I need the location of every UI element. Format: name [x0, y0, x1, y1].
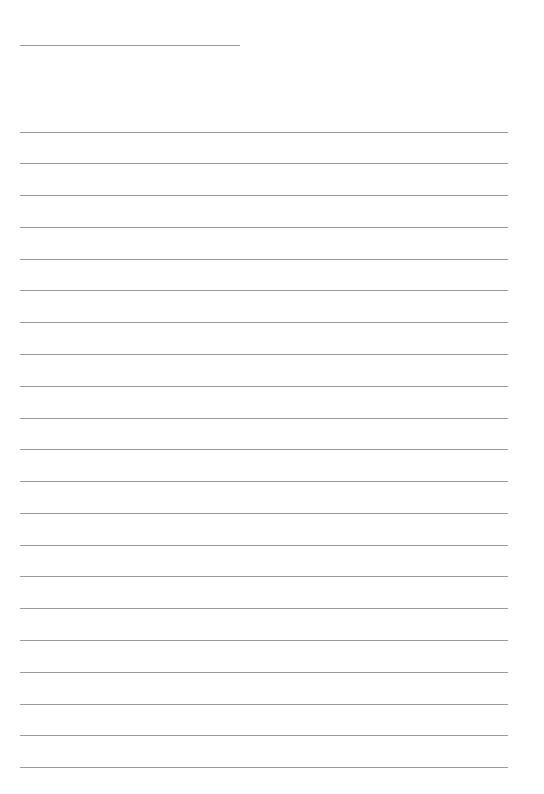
ruled-line	[20, 418, 508, 419]
ruled-line	[20, 195, 508, 196]
ruled-line	[20, 163, 508, 164]
lined-paper-page	[0, 0, 544, 794]
ruled-line	[20, 513, 508, 514]
ruled-line	[20, 608, 508, 609]
ruled-line	[20, 449, 508, 450]
ruled-line	[20, 735, 508, 736]
ruled-line	[20, 259, 508, 260]
ruled-line	[20, 672, 508, 673]
ruled-line	[20, 704, 508, 705]
ruled-line	[20, 386, 508, 387]
ruled-line	[20, 227, 508, 228]
ruled-line	[20, 322, 508, 323]
ruled-line	[20, 640, 508, 641]
ruled-line	[20, 576, 508, 577]
ruled-line	[20, 132, 508, 133]
ruled-line	[20, 767, 508, 768]
ruled-line	[20, 545, 508, 546]
ruled-line	[20, 481, 508, 482]
header-rule	[20, 45, 240, 46]
ruled-line	[20, 290, 508, 291]
ruled-line	[20, 354, 508, 355]
